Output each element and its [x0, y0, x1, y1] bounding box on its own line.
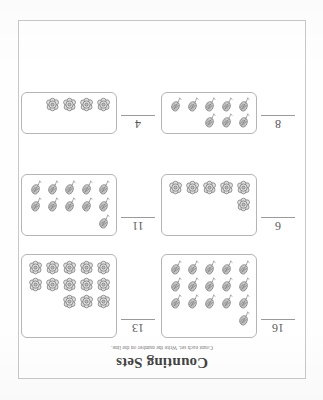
flower-icon [95, 259, 112, 276]
icon-row [61, 293, 112, 310]
leaf-icon [218, 276, 235, 293]
leaf-icon [218, 293, 235, 310]
flower-icon [44, 259, 61, 276]
answer-number: 6 [261, 219, 295, 232]
leaf-icon [27, 196, 44, 213]
icon-row [167, 259, 252, 276]
leaf-icon [78, 196, 95, 213]
answer-field[interactable]: 6 [261, 217, 295, 232]
flower-icon [61, 259, 78, 276]
icon-row [167, 179, 252, 196]
problem-cell: 6 [159, 140, 295, 238]
flower-icon [27, 259, 44, 276]
leaf-icon [235, 293, 252, 310]
flower-icon [61, 97, 78, 114]
icon-row [235, 196, 252, 213]
icon-rows [166, 179, 252, 231]
answer-field[interactable]: 16 [261, 319, 295, 334]
leaf-icon [184, 259, 201, 276]
leaf-icon [218, 259, 235, 276]
leaf-icon [167, 293, 184, 310]
leaf-icon [201, 259, 218, 276]
icon-row [167, 276, 252, 293]
flower-icon [27, 276, 44, 293]
icon-row [44, 97, 112, 113]
flower-icon [44, 97, 61, 114]
leaf-icon [44, 179, 61, 196]
icon-row [167, 293, 252, 310]
leaf-icon [184, 276, 201, 293]
icon-row [95, 213, 112, 230]
leaf-icon [201, 293, 218, 310]
answer-field[interactable]: 4 [121, 115, 155, 130]
icon-row [27, 179, 112, 196]
problem-cell: 13 [19, 242, 155, 340]
leaf-icon [95, 213, 112, 230]
leaf-icon [235, 259, 252, 276]
worksheet-header: Counting Sets Count each set. Write the … [19, 344, 305, 372]
set-box [161, 174, 257, 236]
worksheet-page: Counting Sets Count each set. Write the … [18, 20, 306, 379]
answer-field[interactable]: 13 [121, 319, 155, 334]
problem-cell: 11 [19, 140, 155, 238]
flower-icon [235, 196, 252, 213]
leaf-icon [167, 259, 184, 276]
leaf-icon [184, 97, 201, 114]
answer-number: 16 [261, 321, 295, 334]
leaf-icon [78, 179, 95, 196]
icon-row [27, 259, 112, 276]
set-box [21, 174, 117, 236]
problem-cell: 8 [159, 38, 295, 136]
leaf-icon [27, 179, 44, 196]
leaf-icon [218, 113, 235, 130]
icon-rows [166, 97, 252, 129]
instructions-text: Count each set. Write the number on the … [19, 344, 305, 352]
problem-cell: 16 [159, 242, 295, 340]
icon-row [201, 113, 252, 129]
problem-grid: 161361184 [27, 25, 297, 342]
flower-icon [61, 276, 78, 293]
icon-rows [26, 97, 112, 129]
icon-row [167, 97, 252, 113]
scanned-document: Counting Sets Count each set. Write the … [0, 0, 323, 400]
icon-row [27, 196, 112, 213]
set-box [161, 92, 257, 134]
flower-icon [78, 259, 95, 276]
answer-number: 8 [261, 117, 295, 130]
leaf-icon [95, 196, 112, 213]
flower-icon [95, 293, 112, 310]
icon-row [235, 310, 252, 327]
flower-icon [61, 293, 78, 310]
flower-icon [78, 293, 95, 310]
flower-icon [235, 179, 252, 196]
answer-number: 13 [121, 321, 155, 334]
flower-icon [44, 276, 61, 293]
leaf-icon [167, 97, 184, 114]
flower-icon [218, 179, 235, 196]
flower-icon [167, 179, 184, 196]
flower-icon [78, 276, 95, 293]
icon-rows [26, 259, 112, 333]
set-box [161, 254, 257, 338]
flower-icon [184, 179, 201, 196]
flower-icon [201, 179, 218, 196]
flower-icon [95, 276, 112, 293]
icon-rows [166, 259, 252, 333]
answer-number: 11 [121, 219, 155, 232]
leaf-icon [235, 276, 252, 293]
icon-row [27, 276, 112, 293]
leaf-icon [61, 179, 78, 196]
set-box [21, 254, 117, 338]
flower-icon [78, 97, 95, 114]
answer-field[interactable]: 11 [121, 217, 155, 232]
problem-cell: 4 [19, 38, 155, 136]
answer-field[interactable]: 8 [261, 115, 295, 130]
leaf-icon [201, 276, 218, 293]
leaf-icon [44, 196, 61, 213]
leaf-icon [201, 97, 218, 114]
set-box [21, 92, 117, 134]
leaf-icon [61, 196, 78, 213]
icon-rows [26, 179, 112, 231]
leaf-icon [95, 179, 112, 196]
leaf-icon [218, 97, 235, 114]
